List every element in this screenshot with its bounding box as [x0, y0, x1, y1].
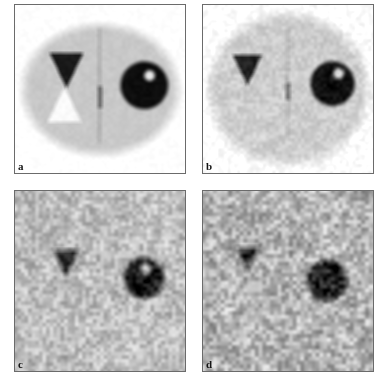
figure-panel-grid: a b c d: [0, 0, 387, 376]
panel-d-label: d: [206, 359, 212, 370]
panel-b-label: b: [206, 161, 212, 172]
panel-b: b: [202, 4, 374, 174]
panel-c-image: [15, 191, 185, 371]
panel-a-label: a: [18, 161, 24, 172]
panel-a: a: [14, 4, 186, 174]
panel-d: d: [202, 190, 374, 372]
panel-b-image: [203, 5, 373, 173]
panel-d-image: [203, 191, 373, 371]
panel-a-image: [15, 5, 185, 173]
panel-c-label: c: [18, 359, 23, 370]
panel-c: c: [14, 190, 186, 372]
